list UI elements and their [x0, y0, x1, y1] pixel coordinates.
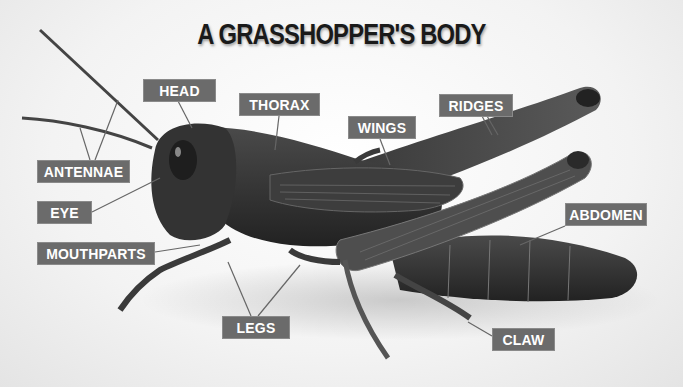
label-head: HEAD	[143, 79, 216, 102]
label-claw: CLAW	[492, 328, 555, 351]
label-wings: WINGS	[348, 116, 416, 139]
label-legs: LEGS	[222, 316, 290, 339]
diagram-canvas: A GRASSHOPPER'S BODY HEAD THORAX WINGS R…	[0, 0, 683, 387]
label-ridges: RIDGES	[439, 94, 513, 117]
middle-leg	[290, 250, 340, 262]
head-shape	[151, 124, 236, 241]
label-abdomen: ABDOMEN	[565, 203, 647, 226]
grasshopper-illustration	[0, 0, 683, 387]
label-eye: EYE	[37, 201, 92, 224]
diagram-title: A GRASSHOPPER'S BODY	[61, 18, 621, 51]
wings-shape	[270, 168, 463, 212]
label-thorax: THORAX	[239, 93, 320, 116]
eye-shape	[169, 140, 197, 180]
label-antennae: ANTENNAE	[37, 160, 130, 183]
antenna-lower	[22, 118, 152, 148]
label-mouthparts: MOUTHPARTS	[37, 242, 155, 265]
